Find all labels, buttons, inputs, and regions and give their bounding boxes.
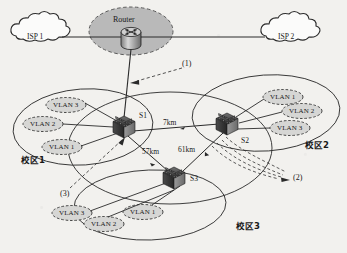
isp-1-label: ISP 1 (27, 33, 43, 41)
callout-3-label: (3) (60, 190, 69, 198)
switch-s1-icon (113, 116, 135, 138)
link-c2v3-s2 (237, 128, 270, 129)
callout-3-arrow (118, 137, 125, 146)
vlan-label-c3-3: VLAN 3 (59, 210, 84, 217)
switch-s2-icon (216, 113, 238, 135)
link-c1v2-s1 (63, 124, 113, 127)
callout-1-label: (1) (182, 60, 191, 68)
vlan-label-c1-1: VLAN 1 (49, 144, 74, 151)
diagram-canvas: ISP 1 ISP 2 Router S1 S2 S3 7km 57km 61k… (0, 0, 347, 253)
callout-2-arrow (281, 177, 290, 182)
callout-1-arrow (130, 80, 139, 85)
vlan-label-c2-3: VLAN 3 (277, 125, 302, 132)
vlan-label-c1-3: VLAN 3 (53, 102, 78, 109)
fan-line-2 (222, 140, 283, 175)
tick-57km (150, 163, 155, 166)
link-c3v1-s3 (152, 186, 180, 205)
callout-1-leader (137, 68, 182, 81)
vlan-label-c2-2: VLAN 2 (289, 108, 314, 115)
vlan-label-c1-2: VLAN 2 (30, 121, 55, 128)
campus-1-label: 校区1 (21, 156, 45, 165)
link-c1v3-s1 (85, 103, 117, 121)
link-router-s1 (124, 49, 131, 118)
link-s1-s2-distance: 7km (163, 119, 176, 127)
vlan-label-c2-1: VLAN 1 (270, 94, 295, 101)
tick-61km (205, 152, 209, 156)
link-c2v2-s2 (239, 112, 282, 123)
link-s1-s3-distance: 57km (142, 148, 159, 156)
campus-3-label: 校区3 (236, 222, 260, 231)
vlan-label-c3-2: VLAN 2 (91, 221, 116, 228)
vlan-label-c3-1: VLAN 1 (130, 209, 155, 216)
isp-2-label: ISP 2 (278, 33, 294, 41)
switch-s2-label: S2 (241, 137, 249, 145)
router-label: Router (113, 16, 135, 24)
switch-s1-label: S1 (139, 112, 147, 120)
link-c2v1-s2 (236, 99, 264, 117)
link-s2-s3-distance: 61km (178, 146, 195, 154)
callout-2-label: (2) (293, 174, 302, 182)
switch-s3-label: S3 (190, 175, 198, 183)
campus-2-label: 校区2 (305, 141, 329, 150)
fan-line-1 (226, 137, 286, 172)
router-icon (121, 27, 141, 49)
link-c1v1-s1 (81, 133, 118, 146)
